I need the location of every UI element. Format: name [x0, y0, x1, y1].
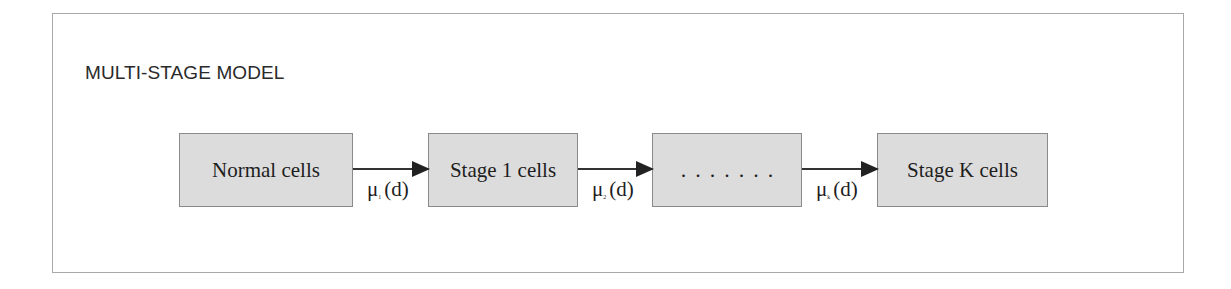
stage-label: Normal cells	[212, 158, 320, 183]
stage-box-ellipsis: .......	[652, 133, 802, 207]
transition-arrow-2	[578, 168, 652, 170]
transition-rate-k: μk(d)	[816, 177, 858, 202]
arrowhead-icon	[636, 161, 654, 177]
diagram-title: MULTI-STAGE MODEL	[85, 62, 284, 84]
stage-label: Stage K cells	[907, 158, 1018, 183]
stage-box-stage-k: Stage K cells	[877, 133, 1048, 207]
transition-rate-2: μ2(d)	[592, 177, 634, 202]
rate-argument: (d)	[609, 177, 634, 201]
mu-symbol: μ	[816, 177, 827, 201]
transition-arrow-k	[802, 168, 877, 170]
rate-subscript: 2	[603, 194, 606, 200]
stage-label: Stage 1 cells	[450, 158, 556, 183]
rate-subscript: 1	[378, 194, 381, 200]
transition-arrow-1	[353, 168, 428, 170]
mu-symbol: μ	[592, 177, 603, 201]
stage-box-normal: Normal cells	[179, 133, 353, 207]
rate-subscript: k	[827, 194, 830, 200]
rate-argument: (d)	[833, 177, 858, 201]
stage-box-stage-1: Stage 1 cells	[428, 133, 578, 207]
arrowhead-icon	[861, 161, 879, 177]
ellipsis-dots: .......	[672, 157, 783, 183]
rate-argument: (d)	[384, 177, 409, 201]
mu-symbol: μ	[367, 177, 378, 201]
arrowhead-icon	[412, 161, 430, 177]
transition-rate-1: μ1(d)	[367, 177, 409, 202]
